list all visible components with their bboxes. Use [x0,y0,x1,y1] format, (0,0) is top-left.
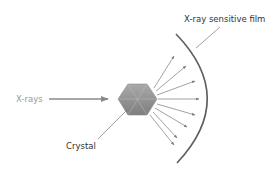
x-ray-diffraction-diagram: X-rays Crystal X-ray sensitive film [0,0,277,174]
film-label: X-ray sensitive film [184,14,265,24]
film-leader-line [196,27,220,48]
crystal-icon [118,84,157,115]
xrays-label: X-rays [16,94,43,104]
diffracted-rays [150,56,199,145]
crystal-label: Crystal [66,141,96,151]
x-ray-film-arc [176,34,207,163]
crystal-leader-line [98,110,127,139]
